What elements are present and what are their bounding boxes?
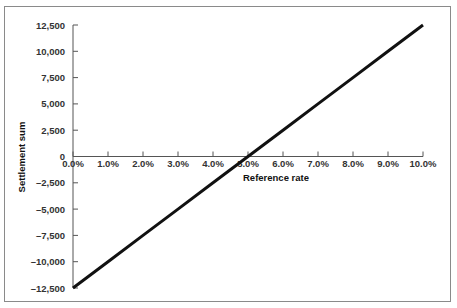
x-tick-label: 3.0% [167,158,189,169]
x-tick-label: 4.0% [202,158,224,169]
y-tick-label: –2,500 [36,177,65,188]
x-tick-label: 8.0% [342,158,364,169]
y-tick-label: –10,000 [31,256,65,267]
x-tick-label: 0.0% [62,158,84,169]
x-tick-label: 9.0% [377,158,399,169]
y-axis-title: Settlement sum [16,122,27,193]
y-tick-label: 12,500 [36,20,65,31]
y-tick-label: 7,500 [41,72,65,83]
y-axis: 12,50010,0007,5005,0002,5000–2,500–5,000… [31,20,78,294]
x-tick-label: 10.0% [410,158,437,169]
y-tick-label: 2,500 [41,125,65,136]
x-tick-label: 2.0% [132,158,154,169]
y-tick-label: –12,500 [31,283,65,294]
x-axis-title: Reference rate [243,172,309,183]
x-tick-label: 1.0% [97,158,119,169]
x-tick-label: 7.0% [307,158,329,169]
y-tick-label: –7,500 [36,230,65,241]
y-tick-label: 5,000 [41,98,65,109]
x-tick-label: 6.0% [272,158,294,169]
line-chart: 12,50010,0007,5005,0002,5000–2,500–5,000… [0,0,457,308]
y-tick-label: –5,000 [36,204,65,215]
y-tick-label: 10,000 [36,46,65,57]
